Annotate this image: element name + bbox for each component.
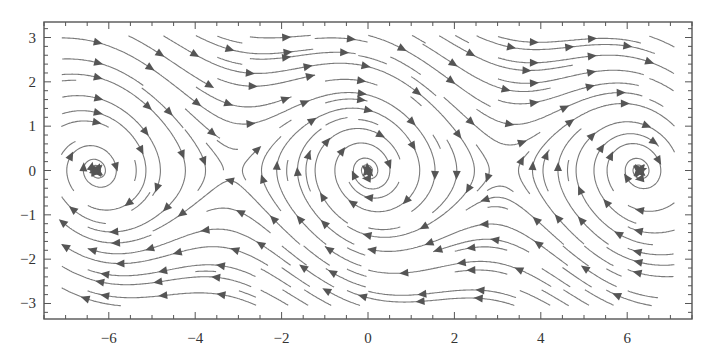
arrow-icon [587, 53, 596, 61]
arrow-icon [357, 76, 366, 84]
arrow-icon [260, 174, 268, 184]
arrow-icon [364, 194, 373, 202]
streamline [628, 291, 658, 298]
streamline [563, 290, 589, 306]
x-tick-label: 4 [537, 330, 545, 346]
streamline [326, 118, 348, 126]
streamline [217, 140, 238, 149]
stream-plot: −6−4−20246−3−2−10123 [0, 0, 712, 358]
arrow-icon [517, 140, 527, 148]
arrow-icon [204, 80, 214, 88]
streamlines [59, 34, 675, 306]
streamline [196, 36, 313, 54]
streamline [606, 269, 621, 277]
arrow-icon [125, 198, 135, 207]
arrow-icon [565, 44, 574, 52]
arrow-icon [216, 262, 226, 270]
arrow-icon [283, 49, 292, 57]
y-tick-label: 1 [29, 118, 37, 134]
arrow-icon [614, 231, 624, 239]
arrow-icon [412, 87, 422, 96]
arrow-icon [433, 245, 443, 253]
arrow-icon [475, 287, 484, 295]
arrow-icon [474, 295, 483, 303]
x-tick-label: −2 [274, 330, 290, 346]
streamline [326, 290, 360, 306]
arrow-icon [216, 291, 226, 299]
streamline [279, 120, 291, 128]
arrow-icon [325, 246, 335, 254]
streamline [347, 248, 365, 255]
arrow-icon [633, 259, 643, 267]
arrow-icon [348, 200, 358, 208]
arrow-icon [408, 140, 416, 150]
streamline [368, 35, 490, 106]
y-tick-label: 2 [29, 74, 37, 90]
streamline [195, 271, 216, 272]
arrow-icon [399, 269, 408, 277]
arrow-icon [69, 206, 79, 215]
arrow-icon [59, 219, 68, 228]
streamline [349, 182, 399, 198]
streamline [206, 143, 223, 171]
arrow-icon [466, 266, 475, 274]
arrow-icon [155, 183, 163, 193]
arrow-icon [282, 34, 291, 42]
arrow-icon [448, 58, 458, 66]
arrow-icon [190, 49, 200, 57]
streamline [283, 290, 309, 306]
arrow-icon [192, 98, 202, 107]
streamline [628, 203, 674, 212]
streamline [304, 246, 330, 266]
arrow-icon [617, 89, 626, 97]
arrow-icon [95, 279, 105, 287]
streamline [439, 36, 573, 71]
streamline [649, 78, 673, 91]
x-tick-label: 6 [623, 330, 631, 346]
streamline [649, 36, 674, 47]
arrow-icon [633, 270, 643, 278]
arrow-icon [79, 162, 87, 171]
arrow-icon [100, 292, 110, 300]
arrow-icon [480, 195, 490, 203]
x-tick-label: 2 [451, 330, 459, 346]
arrow-icon [357, 89, 366, 97]
arrow-icon [635, 207, 645, 215]
streamline [347, 269, 367, 276]
arrow-icon [93, 73, 103, 81]
arrow-icon [416, 297, 425, 305]
arrow-icon [466, 184, 474, 194]
streamline [433, 135, 441, 149]
arrow-icon [648, 136, 658, 144]
arrow-icon [453, 171, 461, 180]
arrow-icon [158, 266, 168, 274]
arrow-icon [256, 241, 266, 249]
arrow-icon [367, 247, 377, 255]
arrow-icon [522, 66, 531, 74]
streamline [282, 246, 307, 265]
streamline [466, 197, 564, 244]
streamline [88, 291, 257, 305]
streamline [368, 290, 516, 298]
arrow-icon [621, 100, 630, 108]
x-tick-label: −6 [101, 330, 117, 346]
arrow-icon [303, 63, 313, 71]
arrow-icon [225, 44, 235, 52]
streamline [262, 136, 282, 210]
arrow-icon [178, 208, 188, 217]
streamline [498, 70, 644, 83]
streamline [584, 268, 617, 287]
arrow-icon [94, 94, 104, 102]
arrow-icon [115, 259, 124, 267]
streamline [488, 207, 508, 209]
streamline [239, 291, 256, 298]
arrow-icon [347, 35, 356, 43]
streamline [196, 87, 292, 107]
streamline [368, 261, 551, 286]
streamline [250, 35, 311, 38]
streamline [368, 227, 400, 230]
arrow-icon [153, 277, 162, 285]
arrow-icon [362, 232, 372, 240]
arrow-icon [585, 84, 595, 92]
arrow-icon [431, 171, 439, 180]
